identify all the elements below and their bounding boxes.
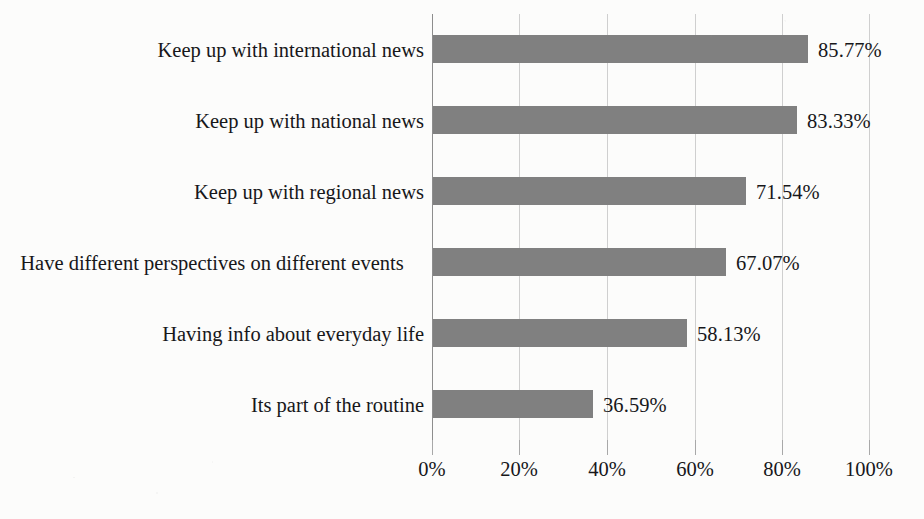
bar[interactable] <box>433 248 726 276</box>
category-label: Its part of the routine <box>251 392 424 418</box>
bar[interactable] <box>433 177 746 205</box>
x-tick-mark <box>782 440 783 455</box>
x-tick-label: 40% <box>588 458 626 481</box>
x-tick-mark <box>695 440 696 455</box>
category-label: Having info about everyday life <box>162 321 424 347</box>
category-label-row: Keep up with international news <box>0 14 424 85</box>
bar-row: 83.33% <box>432 85 870 156</box>
category-label-row: Have different perspectives on different… <box>0 227 424 298</box>
x-tick-mark <box>869 440 870 455</box>
x-axis: 0% 20% 40% 60% 80% 100% <box>432 440 870 510</box>
x-tick-label: 0% <box>418 458 445 481</box>
category-label-row: Having info about everyday life <box>0 298 424 369</box>
bar[interactable] <box>433 35 808 63</box>
x-tick-mark <box>607 440 608 455</box>
bar-value-label: 71.54% <box>756 180 820 203</box>
bar-row: 36.59% <box>432 369 870 440</box>
bar-value-label: 67.07% <box>736 251 800 274</box>
bar-value-label: 58.13% <box>697 322 761 345</box>
bar-row: 58.13% <box>432 298 870 369</box>
bar[interactable] <box>433 319 687 347</box>
category-label: Keep up with national news <box>195 108 424 134</box>
bar-value-label: 83.33% <box>807 109 871 132</box>
category-label-row: Keep up with national news <box>0 85 424 156</box>
chart-page: Keep up with international news Keep up … <box>0 0 924 519</box>
x-tick-mark <box>519 440 520 455</box>
category-label: Have different perspectives on different… <box>0 250 424 276</box>
category-label: Keep up with regional news <box>194 179 424 205</box>
x-tick-mark <box>432 440 433 455</box>
bar-row: 71.54% <box>432 156 870 227</box>
category-label: Keep up with international news <box>158 37 424 63</box>
bar-row: 85.77% <box>432 14 870 85</box>
bar-value-label: 85.77% <box>818 38 882 61</box>
bar[interactable] <box>433 106 797 134</box>
category-label-row: Keep up with regional news <box>0 156 424 227</box>
x-tick-label: 20% <box>500 458 538 481</box>
x-tick-label: 80% <box>763 458 801 481</box>
bar-value-label: 36.59% <box>603 393 667 416</box>
plot-area: 85.77% 83.33% 71.54% 67.07% 58.13% 36.59… <box>432 14 870 440</box>
x-tick-label: 60% <box>676 458 714 481</box>
bar[interactable] <box>433 390 593 418</box>
category-axis-labels: Keep up with international news Keep up … <box>0 14 424 440</box>
bar-row: 67.07% <box>432 227 870 298</box>
x-tick-label: 100% <box>845 458 893 481</box>
category-label-row: Its part of the routine <box>0 369 424 440</box>
